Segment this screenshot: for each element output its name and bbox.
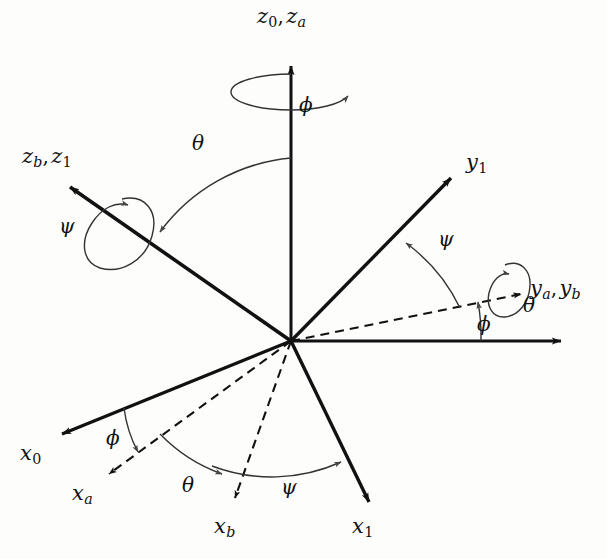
rotation-loop-psi-zb xyxy=(84,198,153,269)
euler-angle-diagram: z0,za zb,z1 y1 ya,yb x0 xa xb x1 ϕ θ ψ ψ… xyxy=(0,0,607,559)
axis-x0-line xyxy=(62,341,291,434)
axis-label-xb: xb xyxy=(214,516,235,540)
axis-label-zb-z1: zb,z1 xyxy=(22,146,72,170)
angle-label-phi-right: ϕ xyxy=(477,314,491,334)
axis-x1-line xyxy=(291,341,369,502)
angle-arc-phi-left xyxy=(124,408,138,452)
axis-label-x1: x1 xyxy=(352,516,373,540)
angle-arc-theta-top xyxy=(160,158,291,232)
angle-arc-psi-right xyxy=(406,243,460,308)
angle-label-theta-bot: θ xyxy=(182,475,194,495)
angle-arc-theta-bottom xyxy=(160,434,222,474)
angle-label-phi-left: ϕ xyxy=(106,428,120,448)
axis-xa-line xyxy=(109,341,291,474)
angle-arc-psi-bottom xyxy=(212,462,341,477)
axis-y1-line xyxy=(291,178,451,341)
axis-label-z0-za: z0,za xyxy=(257,6,306,30)
diagram-canvas xyxy=(0,0,607,559)
angle-label-theta-ya: θ xyxy=(523,295,535,315)
angle-label-psi-zb: ψ xyxy=(59,216,75,236)
axis-label-x0: x0 xyxy=(20,443,41,467)
axis-label-ya-yb: ya,yb xyxy=(530,278,581,302)
angle-label-psi-right: ψ xyxy=(438,229,454,249)
axis-label-y1: y1 xyxy=(466,152,487,176)
angle-label-phi-z0: ϕ xyxy=(299,95,313,115)
angle-label-psi-bot: ψ xyxy=(281,477,297,497)
axis-label-xa: xa xyxy=(72,483,93,507)
angle-label-theta-top: θ xyxy=(192,133,204,153)
